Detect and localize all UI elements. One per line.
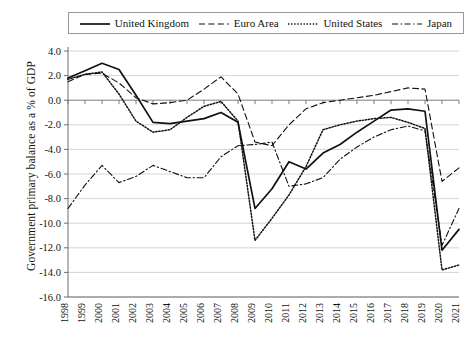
y-tick-label: 2.0 [48,70,61,81]
x-tick-label: 2018 [399,303,410,323]
y-tick-label: 4.0 [48,46,61,57]
x-tick-label: 2017 [382,303,393,323]
x-tick-label: 2011 [280,303,291,323]
x-tick-label: 2007 [212,303,223,323]
x-tick-label: 1998 [59,303,70,323]
x-tick-label: 2021 [450,303,461,323]
y-tick-label: -6.0 [44,169,61,180]
x-tick-label: 2005 [178,303,189,323]
y-tick-label: -12.0 [39,242,61,253]
x-tick-label: 2012 [297,303,308,323]
x-tick-label: 2008 [229,303,240,323]
line-chart-svg: 4.02.00.0-2.0-4.0-6.0-8.0-10.0-12.0-14.0… [0,0,475,346]
y-tick-label: -2.0 [44,119,61,130]
y-tick-label: -8.0 [44,193,61,204]
series-line-united-kingdom [68,63,459,250]
x-tick-label: 2002 [127,303,138,323]
x-tick-label: 2000 [93,303,104,323]
x-tick-label: 2001 [110,303,121,323]
y-tick-label: 0.0 [48,95,61,106]
plot-area: 4.02.00.0-2.0-4.0-6.0-8.0-10.0-12.0-14.0… [0,0,475,346]
x-tick-label: 2014 [331,303,342,323]
x-tick-label: 2009 [246,303,257,323]
y-tick-label: -16.0 [39,292,61,303]
chart-figure: United KingdomEuro AreaUnited StatesJapa… [0,0,475,346]
x-tick-label: 2006 [195,303,206,323]
x-tick-label: 2020 [433,303,444,323]
y-tick-label: -4.0 [44,144,61,155]
x-tick-label: 2019 [416,303,427,323]
series-line-united-states [68,72,459,270]
x-tick-label: 2016 [365,303,376,323]
y-tick-label: -10.0 [39,218,61,229]
y-tick-label: -14.0 [39,267,61,278]
x-tick-label: 2010 [263,303,274,323]
x-tick-label: 2013 [314,303,325,323]
x-tick-label: 1999 [76,303,87,323]
x-tick-label: 2015 [348,303,359,323]
x-tick-label: 2003 [144,303,155,323]
x-tick-label: 2004 [161,303,172,323]
